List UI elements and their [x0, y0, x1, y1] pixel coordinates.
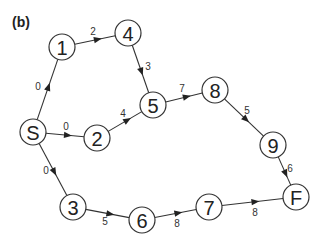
edge-weight-label: 8: [174, 218, 180, 229]
edge-1-4: 2: [75, 26, 116, 45]
node-4: 4: [115, 20, 141, 46]
edge-S-1: 0: [35, 59, 58, 119]
edge-S-3: 0: [39, 143, 67, 195]
edge-weight-label: 4: [120, 108, 126, 119]
node-3: 3: [60, 194, 86, 220]
arrowhead-icon: [123, 118, 132, 125]
edge-weight-label: 5: [102, 216, 108, 227]
node-label: 8: [209, 80, 220, 102]
edge-weight-label: 5: [244, 105, 250, 116]
node-5: 5: [140, 92, 166, 118]
node-8: 8: [202, 77, 228, 103]
edge-9-F: 6: [278, 157, 293, 185]
node-1: 1: [49, 34, 75, 60]
edge-weight-label: 0: [35, 81, 41, 92]
edge-weight-label: 0: [63, 121, 69, 132]
node-label: F: [290, 187, 302, 209]
arrowhead-icon: [137, 67, 143, 76]
graph-diagram: 000234756588 S123456789F: [0, 0, 323, 244]
node-6: 6: [129, 207, 155, 233]
node-label: 4: [122, 23, 133, 45]
edge-weight-label: 2: [90, 26, 96, 37]
node-F: F: [283, 184, 309, 210]
edge-8-9: 5: [224, 99, 263, 136]
arrowhead-icon: [174, 211, 182, 217]
node-label: 6: [136, 210, 147, 232]
edge-weight-label: 6: [287, 163, 293, 174]
edge-6-7: 8: [155, 209, 196, 228]
node-label: 2: [91, 128, 102, 150]
edge-3-6: 5: [86, 209, 129, 226]
node-9: 9: [260, 132, 286, 158]
edge-2-5: 4: [108, 108, 142, 132]
arrowhead-icon: [182, 95, 191, 101]
arrowhead-icon: [93, 37, 101, 43]
node-2: 2: [84, 125, 110, 151]
edge-7-F: 8: [222, 198, 283, 217]
edge-S-2: 0: [46, 121, 84, 139]
arrowhead-icon: [251, 199, 259, 205]
edge-weight-label: 7: [179, 83, 185, 94]
node-label: 7: [203, 197, 214, 219]
edge-weight-label: 3: [145, 61, 151, 72]
edge-4-5: 3: [132, 45, 151, 92]
node-label: 3: [67, 197, 78, 219]
node-S: S: [20, 119, 46, 145]
node-label: S: [26, 122, 39, 144]
edge-weight-label: 8: [252, 207, 258, 218]
arrowhead-icon: [44, 83, 50, 92]
edge-weight-label: 0: [43, 165, 49, 176]
arrowhead-icon: [64, 132, 72, 138]
node-7: 7: [196, 194, 222, 220]
node-label: 9: [267, 135, 278, 157]
arrowhead-icon: [50, 167, 57, 176]
node-label: 5: [147, 95, 158, 117]
edge-5-8: 7: [166, 83, 203, 102]
node-label: 1: [56, 37, 67, 59]
